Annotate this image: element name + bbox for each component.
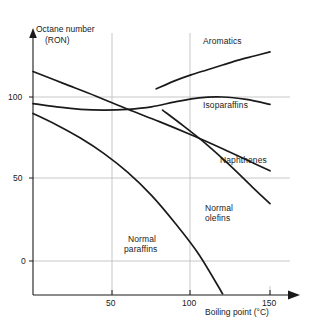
series-curves — [33, 52, 270, 294]
series-label-aromatics: Aromatics — [203, 36, 242, 47]
chart-container: Octane number (RON) Boiling point (°C) 1… — [0, 0, 315, 332]
y-tick-label-0: 0 — [21, 256, 26, 266]
series-curve-aromatics — [156, 52, 270, 89]
x-tick-label-150: 150 — [262, 298, 276, 308]
series-label-naphthenes: Naphthenes — [220, 155, 267, 166]
y-tick-label-50: 50 — [13, 173, 22, 183]
y-tick-label-100: 100 — [8, 92, 22, 102]
x-axis-title: Boiling point (°C) — [205, 307, 269, 318]
series-label-normal-olefins-line2: olefins — [205, 213, 230, 224]
x-tick-label-100: 100 — [182, 298, 196, 308]
series-label-normal-paraffins-line1: Normal — [128, 234, 156, 245]
y-axis — [29, 28, 37, 295]
series-label-normal-paraffins-line2: paraffins — [124, 244, 157, 255]
y-axis-title-line2: (RON) — [45, 35, 70, 46]
x-tick-label-50: 50 — [106, 298, 115, 308]
y-axis-title-line1: Octane number — [36, 24, 95, 35]
chart-plot-area — [0, 0, 315, 332]
x-axis-arrowhead — [288, 291, 300, 300]
series-curve-normal-paraffins — [33, 113, 223, 293]
series-label-normal-olefins-line1: Normal — [205, 203, 233, 214]
series-label-isoparaffins: Isoparaffins — [203, 100, 248, 111]
x-axis — [33, 290, 300, 299]
